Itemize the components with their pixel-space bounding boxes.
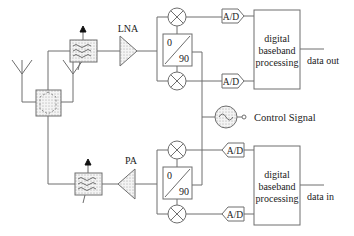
tx-phase-90-label: 90 [179, 186, 189, 197]
tx-filter-icon [75, 165, 102, 203]
antenna-right-icon [61, 60, 83, 102]
pa-label: PA [125, 155, 138, 166]
tx-adc-q-label: A/D [227, 210, 244, 220]
data-out-label: data out [307, 55, 339, 66]
rx-filter-icon [70, 32, 97, 70]
control-signal-label: Control Signal [254, 112, 316, 123]
rx-baseband-line2: baseband [258, 45, 295, 56]
control-terminal-icon [242, 115, 246, 119]
tx-baseband-line1: digital [264, 169, 290, 180]
rx-baseband-line1: digital [264, 33, 290, 44]
rx-adc-i-label: A/D [223, 12, 240, 22]
rx-mixer-i-icon [168, 8, 186, 26]
rx-adc-q-label: A/D [223, 77, 240, 87]
tx-baseband-line3: processing [256, 193, 299, 204]
pa-amplifier-icon [118, 169, 135, 199]
oscillator-icon [215, 106, 237, 128]
lna-label: LNA [118, 23, 139, 34]
tx-mixer-i-icon [168, 141, 186, 159]
rx-phase-0-label: 0 [167, 37, 172, 48]
tune-arrow-icon [85, 159, 91, 165]
duplexer-icon [36, 90, 61, 116]
rx-baseband-line3: processing [256, 57, 299, 68]
rx-mixer-q-icon [168, 72, 186, 90]
lna-amplifier-icon [120, 36, 137, 66]
tx-baseband-line2: baseband [258, 181, 295, 192]
tune-arrow-icon [80, 26, 86, 32]
antenna-left-icon [12, 60, 36, 102]
data-in-label: data in [307, 191, 334, 202]
tx-adc-i-label: A/D [227, 146, 244, 156]
rx-phase-90-label: 90 [179, 53, 189, 64]
tx-mixer-q-icon [168, 205, 186, 223]
tx-phase-0-label: 0 [167, 170, 172, 181]
transceiver-diagram: LNA PA 0 90 0 90 A/D A/D A/D A/D digital… [0, 0, 354, 236]
